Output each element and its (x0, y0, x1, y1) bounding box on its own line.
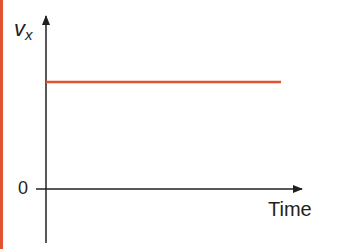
y-axis-label: vx (14, 16, 33, 43)
x-axis-label: Time (268, 198, 312, 221)
y-tick-zero: 0 (18, 178, 28, 199)
